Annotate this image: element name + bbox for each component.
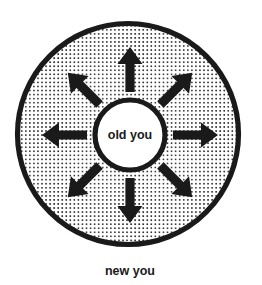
caption-new-you: new you [105, 264, 155, 278]
inner-circle-label: old you [108, 128, 152, 142]
diagram-canvas: old you new you [0, 0, 262, 285]
growth-diagram: old you new you [0, 0, 262, 285]
